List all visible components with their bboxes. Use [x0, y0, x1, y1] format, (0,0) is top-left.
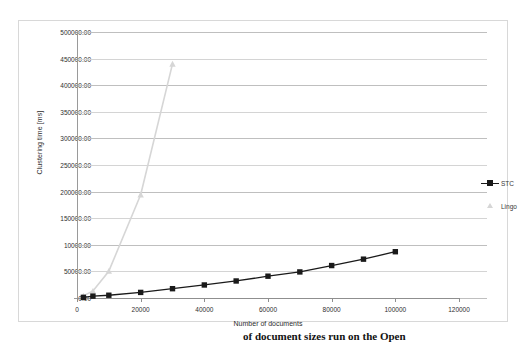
legend-marker-icon [481, 201, 499, 211]
chart-figure: Clustering time [ms] 0.0050000.0010000.0… [0, 0, 523, 343]
x-tick-mark [459, 298, 460, 302]
x-tick-label: 0 [75, 306, 79, 313]
legend-triangle-icon [487, 203, 493, 208]
data-point-marker [90, 293, 95, 298]
series-line [83, 252, 395, 298]
x-tick-label: 60000 [259, 306, 277, 313]
data-point-marker [393, 249, 398, 254]
series-lingo [80, 61, 176, 299]
legend-item-stc[interactable]: STC [481, 176, 523, 190]
x-tick-mark [268, 298, 269, 302]
data-point-marker [106, 293, 111, 298]
x-tick-mark [141, 298, 142, 302]
data-point-marker [361, 256, 366, 261]
x-axis-title: Number of documents [77, 320, 459, 327]
data-point-marker [170, 286, 175, 291]
x-tick-mark [332, 298, 333, 302]
data-point-marker [137, 192, 143, 198]
x-tick-mark [204, 298, 205, 302]
data-point-marker [265, 273, 270, 278]
x-tick-label: 40000 [195, 306, 213, 313]
data-series-layer [77, 32, 459, 298]
plot-area: 020000400006000080000100000120000 Number… [77, 32, 459, 298]
data-point-marker [329, 263, 334, 268]
legend-item-lingo[interactable]: Lingo [481, 199, 523, 213]
data-point-marker [202, 282, 207, 287]
x-tick-mark [395, 298, 396, 302]
data-point-marker [169, 61, 175, 67]
legend-square-icon [487, 180, 493, 186]
figure-caption-text: of document sizes run on the Open [243, 332, 406, 342]
data-point-marker [81, 295, 86, 300]
chart-legend: STCLingo [481, 176, 523, 222]
data-point-marker [233, 278, 238, 283]
x-tick-mark [77, 298, 78, 302]
data-point-marker [297, 269, 302, 274]
series-stc [81, 249, 398, 300]
legend-marker-icon [481, 178, 499, 188]
y-axis-title: Clustering time [ms] [36, 83, 43, 203]
series-line [83, 64, 172, 296]
data-point-marker [138, 290, 143, 295]
legend-label: Lingo [501, 203, 517, 210]
data-point-marker [106, 268, 112, 274]
legend-label: STC [501, 180, 514, 187]
x-tick-label: 120000 [448, 306, 470, 313]
figure-caption-clipped: of document sizes run on the Open [0, 332, 523, 343]
chart-frame: Clustering time [ms] 0.0050000.0010000.0… [18, 20, 508, 322]
x-tick-label: 80000 [323, 306, 341, 313]
x-tick-label: 20000 [132, 306, 150, 313]
x-tick-label: 100000 [384, 306, 406, 313]
